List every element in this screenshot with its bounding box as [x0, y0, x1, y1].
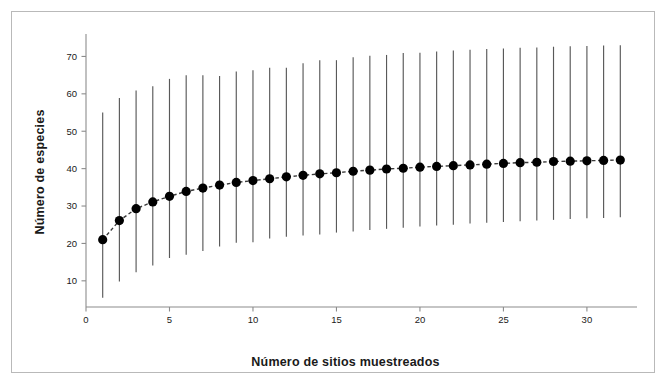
tick-label-group: 05101520253010203040506070: [66, 51, 592, 325]
data-point: [282, 172, 291, 181]
data-point: [115, 216, 124, 225]
data-point: [465, 160, 474, 169]
data-point: [415, 163, 424, 172]
data-point: [265, 174, 274, 183]
data-point: [549, 157, 558, 166]
x-tick-label: 20: [415, 314, 426, 325]
data-point: [482, 160, 491, 169]
data-point: [131, 204, 140, 213]
x-tick-label: 15: [331, 314, 342, 325]
data-point: [365, 166, 374, 175]
x-tick-label: 25: [498, 314, 509, 325]
data-point: [399, 164, 408, 173]
data-point: [248, 176, 257, 185]
data-point: [182, 187, 191, 196]
data-point: [566, 157, 575, 166]
species-accumulation-plot: 05101520253010203040506070: [12, 12, 656, 374]
data-point: [148, 197, 157, 206]
x-tick-label: 10: [248, 314, 259, 325]
x-tick-label: 30: [582, 314, 593, 325]
x-tick-label: 0: [83, 314, 88, 325]
data-point: [616, 155, 625, 164]
figure-container: Número de especies Número de sitios mues…: [0, 0, 667, 384]
data-point: [165, 192, 174, 201]
data-point: [582, 156, 591, 165]
y-tick-label: 30: [66, 200, 77, 211]
y-tick-label: 60: [66, 88, 77, 99]
y-tick-label: 50: [66, 126, 77, 137]
data-point: [298, 171, 307, 180]
data-point: [232, 178, 241, 187]
trend-line: [103, 160, 621, 240]
data-point: [332, 168, 341, 177]
y-tick-label: 40: [66, 163, 77, 174]
data-point: [532, 158, 541, 167]
x-tick-label: 5: [167, 314, 172, 325]
errorbar-group: [103, 45, 621, 297]
data-point: [382, 164, 391, 173]
data-point: [349, 167, 358, 176]
figure-frame: Número de especies Número de sitios mues…: [11, 11, 655, 373]
trend-path: [103, 160, 621, 240]
data-point: [449, 161, 458, 170]
y-tick-label: 20: [66, 238, 77, 249]
data-point: [599, 156, 608, 165]
data-point: [499, 159, 508, 168]
data-point: [98, 235, 107, 244]
y-tick-label: 10: [66, 275, 77, 286]
data-point: [198, 183, 207, 192]
data-point: [215, 180, 224, 189]
data-point: [516, 158, 525, 167]
data-point-group: [98, 155, 625, 244]
y-tick-label: 70: [66, 51, 77, 62]
data-point: [432, 162, 441, 171]
data-point: [315, 169, 324, 178]
